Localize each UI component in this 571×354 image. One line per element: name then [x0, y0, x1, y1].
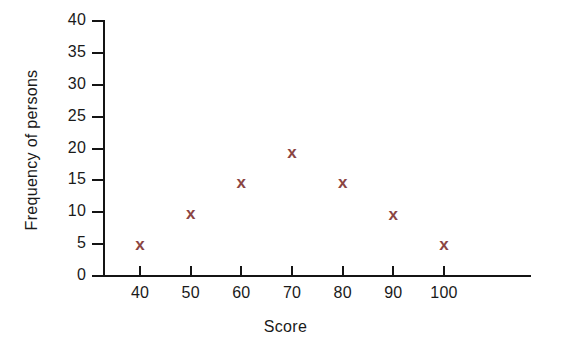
y-axis-tick — [92, 211, 103, 213]
data-point-marker: x — [183, 206, 199, 222]
scatter-chart-figure: 0510152025303540 405060708090100 xxxxxxx… — [0, 0, 571, 354]
x-axis-tick-label: 90 — [365, 284, 421, 302]
x-axis-tick-label: 40 — [112, 284, 168, 302]
x-axis-tick — [190, 266, 192, 276]
y-axis-tick-label-text: 20 — [52, 140, 86, 156]
y-axis-tick — [92, 52, 103, 54]
y-axis-tick-label: 25 — [52, 108, 86, 124]
y-axis-tick — [92, 275, 103, 277]
x-axis-tick-label: 70 — [264, 284, 320, 302]
y-axis-tick — [92, 243, 103, 245]
x-axis-tick — [392, 266, 394, 276]
y-axis-tick — [92, 20, 103, 22]
x-axis-tick — [291, 266, 293, 276]
y-axis-tick-label: 5 — [52, 235, 86, 251]
y-axis-title: Frequency of persons — [23, 30, 43, 270]
y-axis-tick — [92, 148, 103, 150]
data-point-marker: x — [385, 207, 401, 223]
y-axis-tick-label: 30 — [52, 76, 86, 92]
y-axis-title-text: Frequency of persons — [23, 30, 41, 270]
x-axis-tick — [443, 266, 445, 276]
x-axis-tick-label: 50 — [163, 284, 219, 302]
y-axis-tick-label-text: 25 — [52, 108, 86, 124]
x-axis-tick-label: 60 — [213, 284, 269, 302]
data-point-marker: x — [132, 237, 148, 253]
y-axis-tick-label-text: 40 — [52, 12, 86, 28]
y-axis-tick-label: 35 — [52, 44, 86, 60]
y-axis-tick-label: 15 — [52, 171, 86, 187]
data-point-marker: x — [335, 175, 351, 191]
x-axis-tick-label: 100 — [416, 284, 472, 302]
y-axis-tick-label-text: 35 — [52, 44, 86, 60]
y-axis-tick — [92, 84, 103, 86]
y-axis-tick-label: 40 — [52, 12, 86, 28]
x-axis-tick — [240, 266, 242, 276]
y-axis-tick-label-text: 5 — [52, 235, 86, 251]
data-point-marker: x — [436, 237, 452, 253]
y-axis-tick — [92, 179, 103, 181]
data-point-marker: x — [233, 175, 249, 191]
y-axis-tick-label-text: 0 — [52, 267, 86, 283]
y-axis-tick-label-text: 15 — [52, 171, 86, 187]
y-axis-line — [103, 20, 105, 277]
y-axis-tick-label: 10 — [52, 203, 86, 219]
data-point-marker: x — [284, 145, 300, 161]
y-axis-tick-label-text: 10 — [52, 203, 86, 219]
x-axis-line — [103, 275, 531, 277]
x-axis-tick — [139, 266, 141, 276]
y-axis-tick-label-text: 30 — [52, 76, 86, 92]
y-axis-tick — [92, 116, 103, 118]
x-axis-tick-label: 80 — [315, 284, 371, 302]
x-axis-tick — [342, 266, 344, 276]
y-axis-tick-label: 0 — [52, 267, 86, 283]
y-axis-tick-label: 20 — [52, 140, 86, 156]
x-axis-title: Score — [0, 318, 571, 336]
